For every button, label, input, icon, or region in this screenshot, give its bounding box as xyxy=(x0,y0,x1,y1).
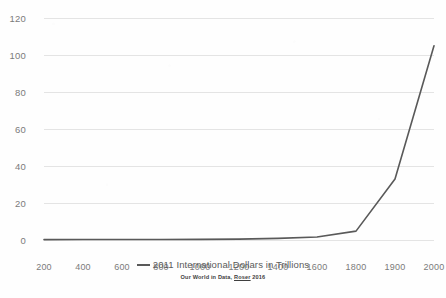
y-tick-label-20: 20 xyxy=(0,198,26,209)
y-tick-label-80: 80 xyxy=(0,87,26,98)
caption-source-link[interactable]: Roser xyxy=(234,274,251,280)
series-line-2011-international-dollars-in-trillions xyxy=(44,46,434,240)
legend-item-label: 2011 International Dollars in Trillions xyxy=(153,259,309,270)
legend-line-marker xyxy=(137,264,150,266)
gdp-line-chart: 020406080100120 200400600800100012001400… xyxy=(0,0,446,298)
y-tick-label-40: 40 xyxy=(0,161,26,172)
source-caption: Our World in Data, Roser 2016 xyxy=(0,274,446,280)
caption-prefix: Our World in Data, xyxy=(181,274,234,280)
caption-suffix: 2016 xyxy=(251,274,266,280)
chart-legend: 2011 International Dollars in Trillions xyxy=(0,259,446,270)
y-tick-label-100: 100 xyxy=(0,50,26,61)
plot-area: 020406080100120 xyxy=(44,18,434,240)
y-tick-label-120: 120 xyxy=(0,13,26,24)
y-tick-label-60: 60 xyxy=(0,124,26,135)
series-layer xyxy=(44,18,434,240)
y-tick-label-0: 0 xyxy=(0,235,26,246)
